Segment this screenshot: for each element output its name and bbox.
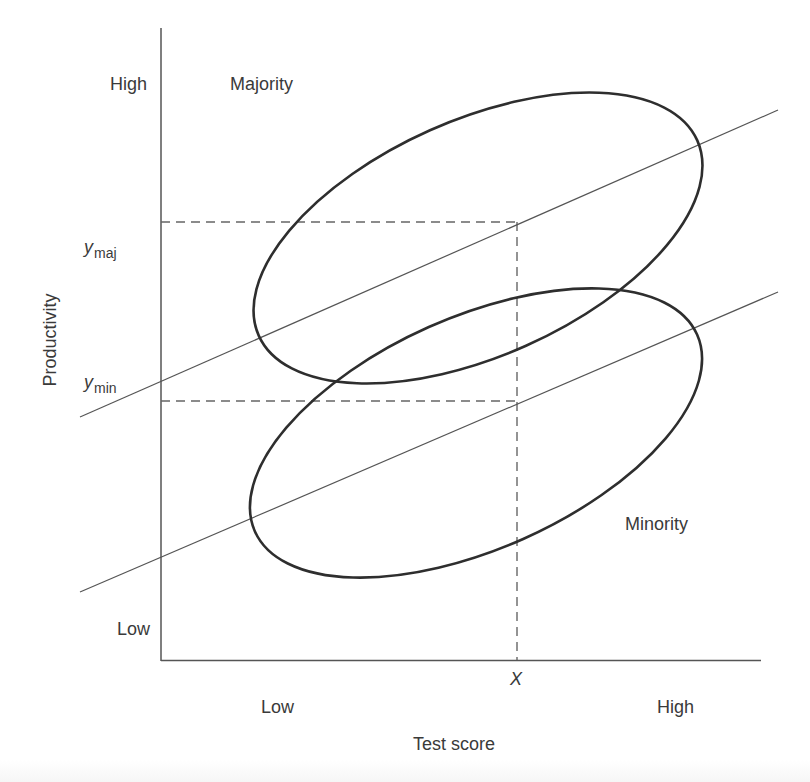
page-edge-shadow [0,760,810,782]
y-min-base: y [84,372,93,392]
y-maj-base: y [84,237,93,257]
y-axis-low-label: Low [117,620,150,638]
minority-regression-line [80,292,778,592]
x-axis-high-label: High [657,698,694,716]
x-axis-low-label: Low [261,698,294,716]
minority-label: Minority [625,515,688,533]
y-min-marker: ymin [84,373,117,391]
y-min-subscript: min [94,380,117,396]
diagram-canvas [0,0,810,782]
minority-ellipse [208,229,745,638]
x-axis-title: Test score [413,735,495,753]
x-marker-label: X [510,670,522,688]
majority-regression-line [80,110,778,417]
majority-label: Majority [230,75,293,93]
y-maj-marker: ymaj [84,238,117,256]
majority-ellipse [211,33,745,444]
y-axis-high-label: High [110,75,147,93]
y-axis-title: Productivity [40,293,61,386]
y-maj-subscript: maj [94,245,117,261]
